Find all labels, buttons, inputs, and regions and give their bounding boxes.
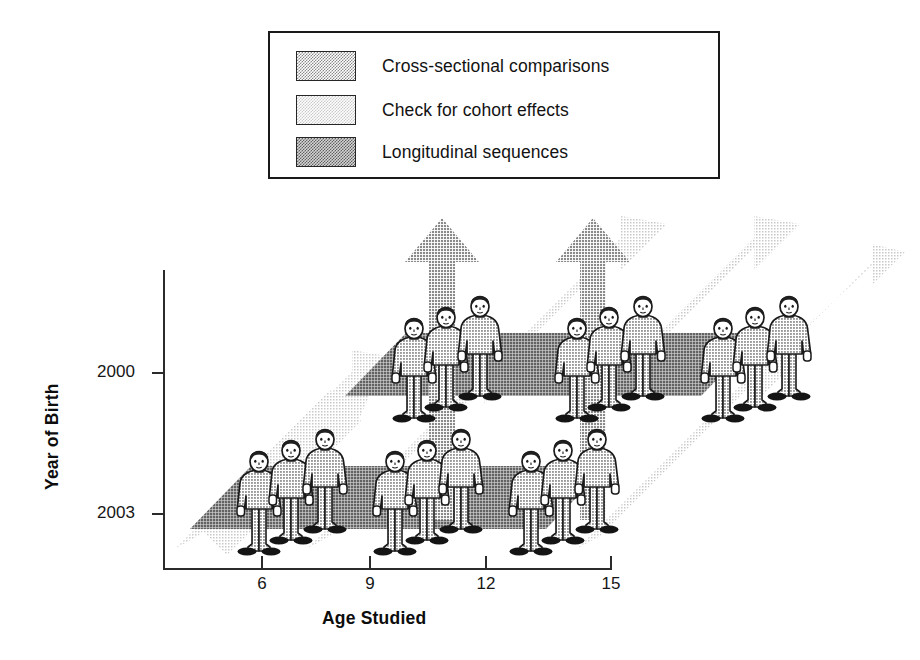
- cohort-group-2003-age12: [509, 429, 619, 555]
- x-axis-title: Age Studied: [322, 608, 426, 629]
- y-tick-2000: [152, 372, 165, 374]
- x-tick-label-15: 15: [591, 574, 631, 594]
- legend-item-cross-sectional: Cross-sectional comparisons: [296, 51, 609, 81]
- x-tick-15: [610, 556, 612, 569]
- sequential-design-figure: 2000 2003 6 9 12 15 Age Studied Year of …: [0, 0, 920, 660]
- x-tick-12: [485, 556, 487, 569]
- y-tick-2003: [152, 513, 165, 515]
- legend-item-cohort-effects: Check for cohort effects: [296, 95, 569, 125]
- cohort-group-2003-age6: [237, 429, 347, 555]
- legend-label-longitudinal: Longitudinal sequences: [382, 142, 568, 163]
- swatch-cross-sectional-icon: [296, 51, 356, 81]
- cohort-group-2000-age12: [555, 296, 665, 422]
- x-tick-label-9: 9: [350, 574, 390, 594]
- legend-item-longitudinal: Longitudinal sequences: [296, 137, 568, 167]
- legend: Cross-sectional comparisons Check for co…: [268, 31, 720, 179]
- cohort-group-2000-age15: [701, 296, 811, 422]
- x-tick-label-6: 6: [242, 574, 282, 594]
- y-axis-title: Year of Birth: [42, 383, 63, 490]
- y-axis-line: [163, 270, 165, 570]
- x-axis-line: [163, 568, 612, 570]
- legend-label-cross-sectional: Cross-sectional comparisons: [382, 56, 609, 77]
- cohort-group-2000-age9: [392, 296, 502, 422]
- swatch-cohort-effects-icon: [296, 95, 356, 125]
- y-tick-label-2003: 2003: [86, 503, 146, 523]
- x-tick-label-12: 12: [466, 574, 506, 594]
- cohort-group-2003-age9: [373, 429, 483, 555]
- x-tick-9: [369, 556, 371, 569]
- y-tick-label-2000: 2000: [86, 362, 146, 382]
- legend-label-cohort-effects: Check for cohort effects: [382, 100, 569, 121]
- x-tick-6: [261, 556, 263, 569]
- swatch-longitudinal-icon: [296, 137, 356, 167]
